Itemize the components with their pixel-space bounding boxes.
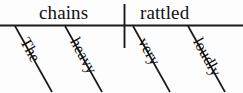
subject-word: chains [39, 3, 88, 22]
sentence-diagram: chains rattled The heavy very loudly [0, 0, 243, 93]
predicate-word: rattled [140, 3, 189, 22]
